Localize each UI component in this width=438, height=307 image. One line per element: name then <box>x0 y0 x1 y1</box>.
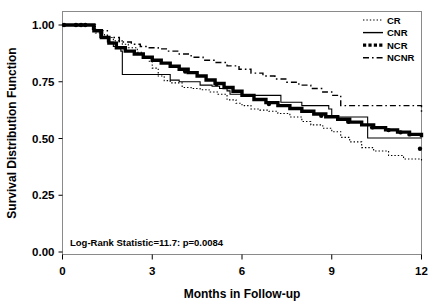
x-tick-label: 12 <box>415 265 428 277</box>
censor-dot <box>346 120 350 124</box>
censor-dot <box>267 102 271 106</box>
legend-label-ncnr: NCNR <box>387 52 415 63</box>
kaplan-meier-chart: 0.000.250.500.751.00 036912 Survival Dis… <box>0 0 438 307</box>
x-axis-title: Months in Follow-up <box>184 287 301 301</box>
chart-background <box>0 0 438 307</box>
chart-canvas: 0.000.250.500.751.00 036912 Survival Dis… <box>0 0 438 307</box>
censor-dot <box>418 147 422 151</box>
x-tick-label: 6 <box>239 265 245 277</box>
y-axis-title: Survival Distribution Function <box>5 47 19 218</box>
censor-dot <box>183 69 187 73</box>
censor-dot <box>386 128 390 132</box>
x-tick-label: 0 <box>59 265 65 277</box>
legend-label-cnr: CNR <box>387 27 408 38</box>
x-tick-label: 3 <box>149 265 155 277</box>
censor-dot <box>83 23 87 27</box>
censor-dot <box>79 23 83 27</box>
y-tick-label: 1.00 <box>32 19 54 31</box>
y-tick-label: 0.50 <box>32 133 54 145</box>
y-tick-label: 0.00 <box>32 246 54 258</box>
y-tick-label: 0.75 <box>32 76 55 88</box>
legend-label-cr: CR <box>387 15 401 26</box>
censor-dot <box>407 132 411 136</box>
x-tick-label: 9 <box>329 265 335 277</box>
censor-dot <box>62 23 66 27</box>
legend-label-ncr: NCR <box>387 40 408 51</box>
censor-dot <box>214 82 218 86</box>
censor-dot <box>74 23 78 27</box>
censor-dot <box>370 125 374 129</box>
log-rank-annotation: Log-Rank Statistic=11.7: p=0.0084 <box>70 237 224 248</box>
y-tick-label: 0.25 <box>32 189 55 201</box>
censor-dot <box>398 130 402 134</box>
censor-dot <box>319 114 323 118</box>
